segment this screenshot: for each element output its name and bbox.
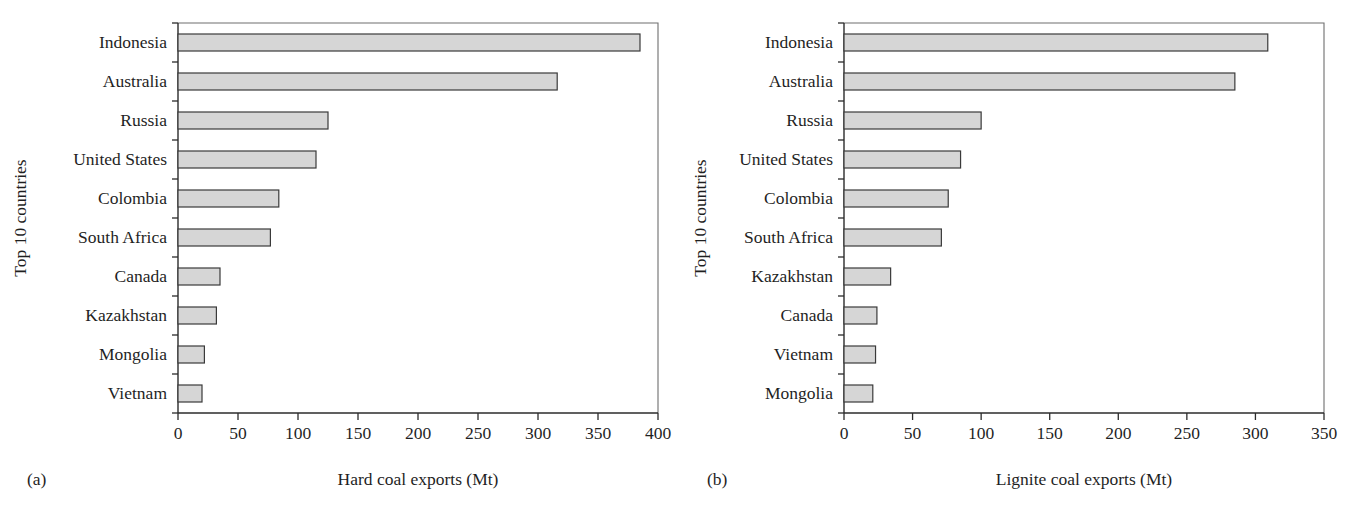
hard-coal-exports-bar-chart: 050100150200250300350400IndonesiaAustral… <box>0 0 680 516</box>
bar <box>178 190 279 207</box>
bar <box>178 34 640 51</box>
x-axis-tick-label: 250 <box>1174 423 1201 443</box>
x-axis-title: Lignite coal exports (Mt) <box>996 469 1173 489</box>
bar <box>844 268 891 285</box>
bar <box>178 307 216 324</box>
bar <box>844 112 981 129</box>
bar-group <box>178 112 328 129</box>
bar-group <box>844 190 948 207</box>
bar-group <box>178 73 557 90</box>
x-axis-tick-label: 100 <box>968 423 995 443</box>
bar-group <box>178 307 216 324</box>
bar-group <box>178 385 202 402</box>
panel-b-lignite-coal: 050100150200250300350IndonesiaAustraliaR… <box>680 0 1357 516</box>
bar <box>178 151 316 168</box>
y-axis-category-label: Mongolia <box>99 344 167 364</box>
y-axis-title: Top 10 countries <box>690 159 710 277</box>
panel-tag: (b) <box>707 469 728 489</box>
x-axis-tick-label: 350 <box>585 423 612 443</box>
bar <box>178 385 202 402</box>
y-axis-category-label: Indonesia <box>765 32 833 52</box>
y-axis-category-label: Canada <box>115 266 168 286</box>
lignite-coal-exports-bar-chart: 050100150200250300350IndonesiaAustraliaR… <box>680 0 1357 516</box>
bar <box>844 307 877 324</box>
y-axis-category-label: Vietnam <box>108 383 168 403</box>
x-axis-tick-label: 100 <box>285 423 312 443</box>
y-axis-category-label: Canada <box>781 305 834 325</box>
y-axis-category-label: Colombia <box>764 188 833 208</box>
x-axis-tick-label: 350 <box>1311 423 1338 443</box>
y-axis-category-label: United States <box>739 149 833 169</box>
y-axis-category-label: Australia <box>769 71 833 91</box>
bar <box>178 268 220 285</box>
x-axis-tick-label: 250 <box>465 423 492 443</box>
y-axis-category-label: Kazakhstan <box>751 266 833 286</box>
bar <box>178 346 204 363</box>
bar-group <box>844 151 961 168</box>
bar-group <box>844 73 1235 90</box>
bar <box>178 229 270 246</box>
x-axis-tick-label: 50 <box>229 423 247 443</box>
x-axis-tick-label: 400 <box>645 423 672 443</box>
x-axis-tick-label: 300 <box>1242 423 1269 443</box>
y-axis-category-label: Russia <box>786 110 833 130</box>
bar <box>844 34 1268 51</box>
bar-group <box>844 34 1268 51</box>
y-axis-category-label: United States <box>73 149 167 169</box>
y-axis-category-label: Vietnam <box>774 344 834 364</box>
bar-group <box>844 229 941 246</box>
x-axis-tick-label: 200 <box>1105 423 1132 443</box>
bar-group <box>844 385 873 402</box>
bar-group <box>178 34 640 51</box>
y-axis-category-label: Mongolia <box>765 383 833 403</box>
x-axis-tick-label: 300 <box>525 423 552 443</box>
bar-group <box>178 229 270 246</box>
bar <box>844 346 876 363</box>
bar-group <box>844 112 981 129</box>
y-axis-title: Top 10 countries <box>10 159 30 277</box>
bar <box>178 73 557 90</box>
y-axis-category-label: Kazakhstan <box>85 305 167 325</box>
bar <box>844 151 961 168</box>
bar <box>844 229 941 246</box>
x-axis-tick-label: 150 <box>1037 423 1064 443</box>
bar <box>178 112 328 129</box>
y-axis-category-label: Indonesia <box>99 32 167 52</box>
x-axis-tick-label: 0 <box>174 423 183 443</box>
x-axis-tick-label: 0 <box>840 423 849 443</box>
y-axis-category-label: South Africa <box>78 227 167 247</box>
panel-tag: (a) <box>27 469 47 489</box>
figure-two-panel-bar-charts: 050100150200250300350400IndonesiaAustral… <box>0 0 1357 516</box>
bar <box>844 73 1235 90</box>
x-axis-tick-label: 150 <box>345 423 372 443</box>
y-axis-category-label: Russia <box>120 110 167 130</box>
panel-a-hard-coal: 050100150200250300350400IndonesiaAustral… <box>0 0 680 516</box>
x-axis-tick-label: 50 <box>904 423 922 443</box>
y-axis-category-label: Colombia <box>98 188 167 208</box>
bar-group <box>178 151 316 168</box>
bar-group <box>178 346 204 363</box>
bar-group <box>844 346 876 363</box>
x-axis-title: Hard coal exports (Mt) <box>338 469 499 489</box>
y-axis-category-label: South Africa <box>744 227 833 247</box>
bar-group <box>178 268 220 285</box>
bar-group <box>844 307 877 324</box>
y-axis-category-label: Australia <box>103 71 167 91</box>
bar-group <box>844 268 891 285</box>
bar-group <box>178 190 279 207</box>
bar <box>844 190 948 207</box>
x-axis-tick-label: 200 <box>405 423 432 443</box>
bar <box>844 385 873 402</box>
